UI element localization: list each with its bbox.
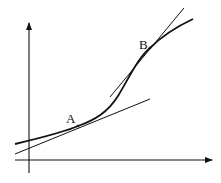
tangent-line-a (15, 99, 150, 154)
point-b-marker (149, 47, 152, 50)
curve (15, 19, 193, 144)
tangent-diagram: A B (0, 0, 221, 183)
tangent-line-b (110, 8, 184, 97)
point-b-label: B (139, 37, 148, 52)
point-a-label: A (66, 111, 76, 126)
point-a-marker (77, 125, 80, 128)
